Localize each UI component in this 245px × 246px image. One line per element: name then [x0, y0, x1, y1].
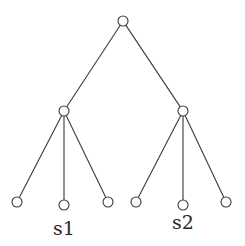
leaf-label-s1: s1	[53, 217, 75, 239]
edge-right-r3	[185, 116, 224, 198]
tree-node-l1	[12, 197, 22, 207]
tree-nodes	[12, 16, 231, 210]
edge-root-left	[67, 25, 121, 107]
tree-node-root	[118, 16, 128, 26]
tree-node-r3	[221, 197, 231, 207]
tree-node-left	[59, 106, 69, 116]
tree-node-l2	[59, 200, 69, 210]
leaf-label-s2: s2	[172, 211, 194, 233]
tree-node-l3	[103, 197, 113, 207]
edge-left-l1	[19, 115, 61, 197]
edge-left-l3	[66, 116, 106, 198]
edge-right-r1	[138, 115, 180, 197]
edge-root-right	[126, 25, 180, 107]
tree-diagram: s1 s2	[0, 0, 245, 246]
tree-node-r1	[131, 197, 141, 207]
tree-edges	[19, 25, 224, 200]
tree-node-right	[178, 106, 188, 116]
tree-node-r2	[178, 200, 188, 210]
tree-labels: s1 s2	[53, 211, 194, 239]
